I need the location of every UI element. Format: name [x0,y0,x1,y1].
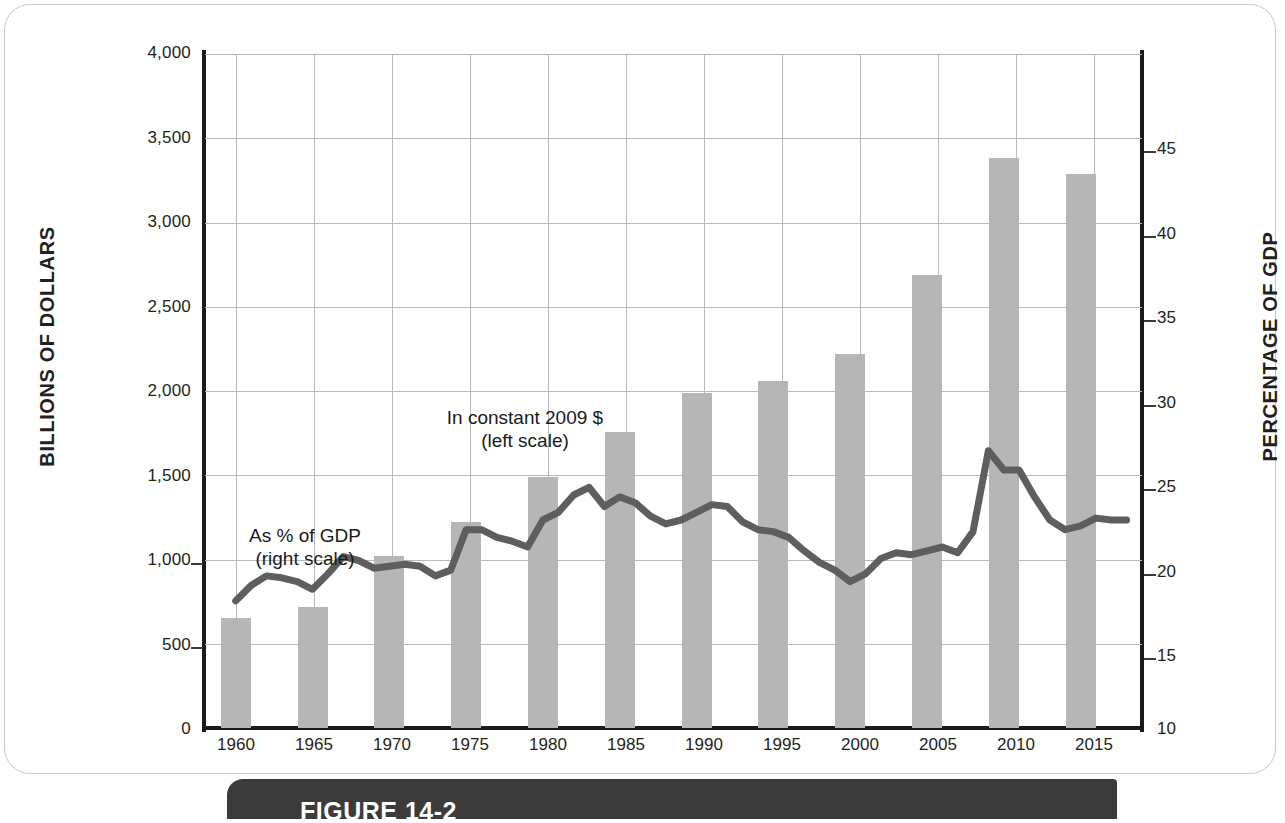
x-tick-1995: 1995 [737,735,827,755]
bars-annotation-line2: (left scale) [410,429,640,452]
left-tick-3500: 3,500 [71,128,191,148]
right-tickmark-30 [1144,405,1156,407]
right-tick-40: 40 [1157,224,1227,244]
right-tick-35: 35 [1157,308,1227,328]
line-annotation-line1: As % of GDP [200,524,410,547]
left-tick-500: 500 [71,635,191,655]
left-axis-title: BILLIONS OF DOLLARS [36,67,59,627]
right-tick-10: 10 [1157,719,1227,739]
right-tick-25: 25 [1157,477,1227,497]
right-tickmark-35 [1144,320,1156,322]
left-tickmark-500 [191,647,203,649]
right-tickmark-25 [1144,489,1156,491]
left-tick-4000: 4,000 [71,43,191,63]
x-tick-1990: 1990 [659,735,749,755]
x-tick-2000: 2000 [815,735,905,755]
x-tick-2010: 2010 [971,735,1061,755]
x-tick-1985: 1985 [581,735,671,755]
right-tick-20: 20 [1157,562,1227,582]
right-tick-45: 45 [1157,139,1227,159]
x-tick-1965: 1965 [269,735,359,755]
left-tick-1500: 1,500 [71,466,191,486]
right-tick-15: 15 [1157,646,1227,666]
bars-annotation: In constant 2009 $ (left scale) [410,406,640,452]
right-tick-30: 30 [1157,393,1227,413]
x-tick-1960: 1960 [191,735,281,755]
line-series [205,54,1142,728]
left-tick-0: 0 [71,719,191,739]
left-tick-3000: 3,000 [71,212,191,232]
bars-annotation-line1: In constant 2009 $ [410,406,640,429]
x-tick-2005: 2005 [893,735,983,755]
right-tickmark-45 [1144,151,1156,153]
left-tick-1000: 1,000 [71,550,191,570]
left-tick-2500: 2,500 [71,297,191,317]
right-tickmark-20 [1144,574,1156,576]
figure-card: BILLIONS OF DOLLARS PERCENTAGE OF GDP 4,… [4,4,1276,774]
left-tick-2000: 2,000 [71,381,191,401]
plot-area: In constant 2009 $ (left scale) As % of … [205,54,1142,728]
figure-caption-label: FIGURE 14-2 [300,797,457,823]
right-tickmark-15 [1144,658,1156,660]
x-tick-2015: 2015 [1049,735,1139,755]
line-annotation: As % of GDP (right scale) [200,524,410,570]
x-tick-1970: 1970 [347,735,437,755]
x-tick-1975: 1975 [425,735,515,755]
right-axis-title: PERCENTAGE OF GDP [1259,67,1282,627]
x-tick-1980: 1980 [503,735,593,755]
right-tickmark-40 [1144,236,1156,238]
line-annotation-line2: (right scale) [200,547,410,570]
